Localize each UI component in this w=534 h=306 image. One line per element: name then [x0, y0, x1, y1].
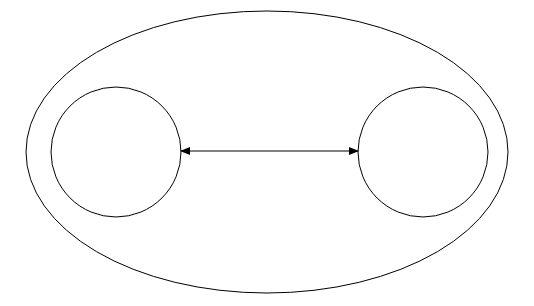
right-circle [358, 87, 488, 217]
left-circle [51, 87, 181, 217]
diagram-canvas [0, 0, 534, 306]
outer-ellipse [26, 11, 508, 293]
